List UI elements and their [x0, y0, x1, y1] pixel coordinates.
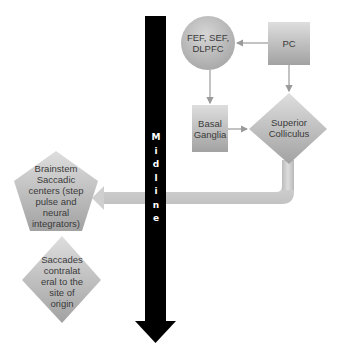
midline-letter: e — [153, 212, 159, 226]
brainstem-line: neural — [43, 207, 69, 218]
midline-letter: n — [153, 199, 159, 213]
midline-letter: M — [152, 131, 161, 145]
saccades-line: eral to the — [41, 276, 83, 287]
midline-letter: l — [154, 172, 157, 186]
saccades-line: contralat — [44, 265, 80, 276]
label-basal-ganglia: Basal Ganglia — [192, 105, 228, 152]
pc-text: PC — [282, 38, 295, 49]
midline-letter: i — [154, 185, 157, 199]
brainstem-line: integrators) — [32, 218, 80, 229]
label-brainstem: Brainstem Saccadic centers (step pulse a… — [14, 162, 98, 230]
midline-label: M i d l i n e — [146, 131, 166, 226]
colliculus-to-brainstem-connector — [92, 160, 294, 210]
brainstem-line: Brainstem — [35, 163, 78, 174]
brainstem-line: centers (step — [29, 185, 84, 196]
label-saccades: Saccades contralat eral to the site of o… — [24, 252, 100, 310]
saccades-line: site of — [49, 287, 74, 298]
fef-text: FEF, SEF, DLPFC — [183, 32, 233, 54]
basal-ganglia-line2: Ganglia — [194, 129, 227, 140]
saccades-line: origin — [50, 298, 73, 309]
basal-ganglia-line1: Basal — [198, 118, 222, 129]
colliculus-line1: Superior — [271, 117, 307, 128]
midline-letter: d — [153, 158, 159, 172]
label-superior-colliculus: Superior Colliculus — [255, 108, 323, 148]
label-pc: PC — [268, 22, 310, 65]
brainstem-line: pulse and — [35, 196, 76, 207]
saccades-line: Saccades — [41, 254, 83, 265]
colliculus-line2: Colliculus — [269, 128, 310, 139]
midline-letter: i — [154, 145, 157, 159]
brainstem-line: Saccadic — [37, 174, 76, 185]
label-fef-sef-dlpfc: FEF, SEF, DLPFC — [183, 27, 233, 59]
